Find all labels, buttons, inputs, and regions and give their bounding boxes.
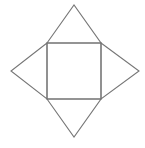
pyramid-net-svg [0, 0, 145, 148]
left-triangle-face [11, 43, 47, 99]
bottom-triangle-face [47, 99, 101, 137]
pyramid-net-diagram [0, 0, 145, 148]
square-base-face [47, 43, 101, 99]
right-triangle-face [101, 43, 139, 99]
top-triangle-face [47, 5, 101, 43]
